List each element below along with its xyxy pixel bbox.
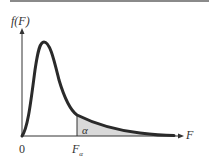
origin-label: 0 bbox=[19, 143, 25, 155]
critical-value-label: Fα bbox=[72, 143, 83, 158]
alpha-area-label: α bbox=[82, 125, 88, 136]
y-axis-label: f(F) bbox=[11, 15, 30, 27]
f-distribution-plot bbox=[0, 0, 209, 161]
y-axis-arrow-icon bbox=[20, 28, 25, 34]
x-axis-arrow-icon bbox=[178, 134, 184, 139]
x-axis-label: F bbox=[186, 129, 193, 141]
density-curve bbox=[22, 42, 174, 136]
critical-value-subscript: α bbox=[79, 150, 83, 158]
alpha-tail-shading bbox=[77, 115, 174, 136]
